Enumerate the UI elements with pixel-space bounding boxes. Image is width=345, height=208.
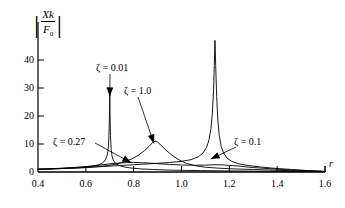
y-tick-label: 10 — [16, 138, 34, 149]
y-tick-label: 0 — [16, 166, 34, 177]
x-tick-label: 0.8 — [119, 178, 149, 189]
x-tick-label: 0.6 — [71, 178, 101, 189]
zeta-10-arrowhead — [148, 134, 154, 144]
y-tick-label: 30 — [16, 82, 34, 93]
x-tick-label: 1.0 — [167, 178, 197, 189]
series-line-3 — [38, 40, 325, 171]
zeta-01-arrowhead — [211, 152, 221, 159]
zeta-10-label: ζ = 1.0 — [124, 85, 151, 96]
series-line-0 — [38, 91, 325, 172]
x-axis-label: r — [329, 158, 333, 169]
zeta-001-label: ζ = 0.01 — [96, 62, 128, 73]
chart-figure: |XkF0| 0.40.60.81.01.21.41.6010203040 ζ … — [0, 0, 345, 208]
x-tick-label: 1.6 — [310, 178, 340, 189]
x-tick-label: 1.2 — [214, 178, 244, 189]
y-tick-label: 40 — [16, 54, 34, 65]
zeta-027-arrowhead — [122, 155, 132, 162]
x-tick-label: 0.4 — [23, 178, 53, 189]
x-tick-label: 1.4 — [262, 178, 292, 189]
plot-canvas — [0, 0, 345, 208]
y-tick-label: 20 — [16, 110, 34, 121]
zeta-027-label: ζ = 0.27 — [53, 136, 85, 147]
zeta-01-label: ζ = 0.1 — [234, 136, 261, 147]
zeta-001-arrowhead — [106, 87, 113, 96]
